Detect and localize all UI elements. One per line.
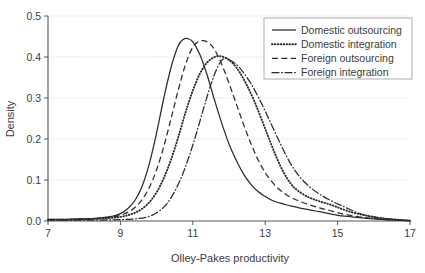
y-tick-label: 0.5 (26, 10, 41, 22)
y-tick-label: 0.1 (26, 174, 41, 186)
y-tick-label: 0.3 (26, 92, 41, 104)
x-tick-group: 7911131517 (45, 221, 416, 239)
legend: Domestic outsourcingDomestic integration… (264, 18, 412, 79)
chart-canvas: 7911131517 0.00.10.20.30.40.5 Olley-Pake… (0, 0, 425, 273)
legend-label: Foreign outsourcing (301, 52, 394, 64)
y-tick-label: 0.2 (26, 133, 41, 145)
x-tick-label: 17 (404, 227, 416, 239)
x-tick-label: 7 (45, 227, 51, 239)
x-axis-title: Olley-Pakes productivity (171, 252, 289, 264)
y-tick-label: 0.0 (26, 215, 41, 227)
y-tick-label: 0.4 (26, 51, 41, 63)
x-tick-label: 9 (117, 227, 123, 239)
x-tick-label: 11 (187, 227, 198, 239)
y-axis-title: Density (4, 100, 16, 137)
series-line-domestic-integration (48, 56, 410, 220)
y-tick-group: 0.00.10.20.30.40.5 (26, 10, 48, 227)
legend-label: Domestic outsourcing (301, 24, 402, 36)
x-tick-label: 15 (332, 227, 344, 239)
density-chart-figure: 7911131517 0.00.10.20.30.40.5 Olley-Pake… (0, 0, 425, 273)
x-tick-label: 13 (259, 227, 271, 239)
legend-label: Foreign integration (301, 66, 389, 78)
legend-label: Domestic integration (301, 38, 397, 50)
